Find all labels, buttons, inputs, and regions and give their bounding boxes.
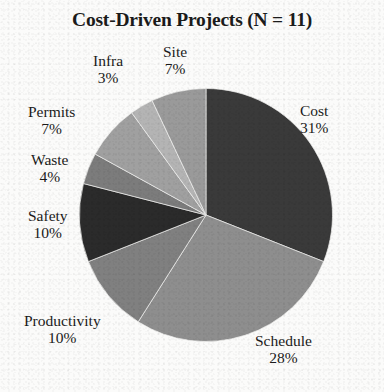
slice-label-permits-name: Permits	[28, 104, 75, 121]
slice-label-waste-name: Waste	[31, 152, 69, 169]
pie-svg	[79, 88, 333, 342]
slice-label-productivity-pct: 10%	[24, 330, 101, 347]
slice-label-infra: Infra 3%	[93, 53, 123, 86]
slice-label-waste-pct: 4%	[31, 169, 69, 186]
slice-label-productivity: Productivity 10%	[24, 313, 101, 346]
slice-label-productivity-name: Productivity	[24, 313, 101, 330]
pie-chart-graphic	[79, 88, 333, 342]
slice-label-cost-pct: 31%	[300, 120, 328, 137]
slice-label-cost-name: Cost	[300, 103, 328, 120]
slice-label-infra-pct: 3%	[93, 70, 123, 87]
pie-slice-group	[79, 89, 332, 342]
slice-label-permits: Permits 7%	[28, 104, 75, 137]
slice-label-site-pct: 7%	[163, 61, 187, 78]
slice-label-safety-name: Safety	[28, 208, 68, 225]
slice-label-infra-name: Infra	[93, 53, 123, 70]
chart-title: Cost-Driven Projects (N = 11)	[0, 9, 384, 31]
slice-label-safety: Safety 10%	[28, 208, 68, 241]
slice-label-waste: Waste 4%	[31, 152, 69, 185]
slice-label-schedule-name: Schedule	[255, 333, 312, 350]
slice-label-site: Site 7%	[163, 44, 187, 77]
slice-label-schedule: Schedule 28%	[255, 333, 312, 366]
slice-label-site-name: Site	[163, 44, 187, 61]
slice-label-safety-pct: 10%	[28, 225, 68, 242]
slice-label-schedule-pct: 28%	[255, 350, 312, 367]
pie-chart-figure: Cost-Driven Projects (N = 11) Cost 31% S…	[0, 0, 384, 392]
slice-label-cost: Cost 31%	[300, 103, 328, 136]
slice-label-permits-pct: 7%	[28, 121, 75, 138]
